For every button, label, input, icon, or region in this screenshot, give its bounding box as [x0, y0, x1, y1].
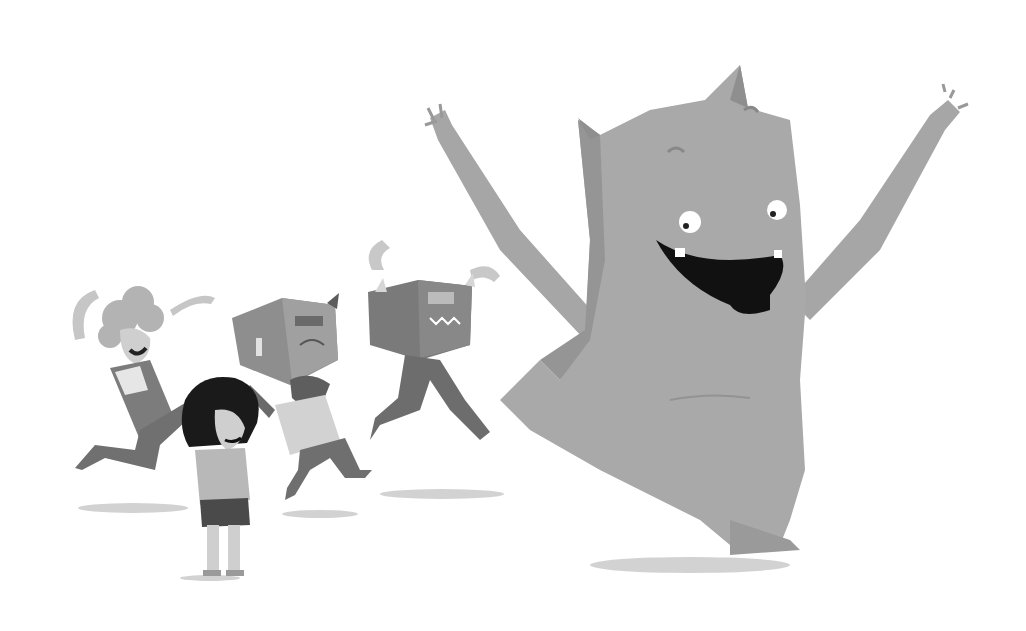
illustration-scene: Grayscale illustration of a large happy … — [0, 0, 1026, 631]
big-monster — [425, 65, 968, 555]
black-hair-kid — [182, 377, 259, 576]
illustration-canvas — [0, 0, 1026, 631]
box-mask-kid-right — [368, 240, 500, 440]
